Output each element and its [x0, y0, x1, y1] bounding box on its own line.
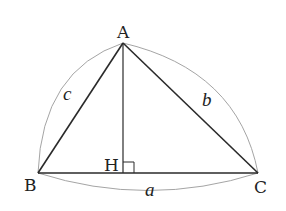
label-c-vertex: C: [254, 177, 267, 197]
label-a-vertex: A: [116, 22, 130, 42]
right-angle-marker: [123, 162, 134, 173]
label-side-b: b: [202, 89, 212, 110]
label-h-foot: H: [104, 155, 119, 175]
triangle-diagram: A B C H a b c: [0, 0, 286, 211]
label-b-vertex: B: [24, 175, 37, 195]
label-side-c: c: [63, 83, 72, 104]
side-ac: [123, 43, 258, 173]
label-side-a: a: [145, 179, 155, 200]
